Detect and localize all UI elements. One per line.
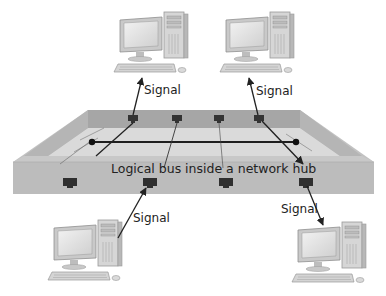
signal-label-bottom-right: Signal [281,202,318,216]
network-hub-diagram: Signal Signal Signal Signal Logical bus … [0,0,386,296]
computer-bottom-left-icon [48,220,122,281]
signal-arrow-top-left [133,78,142,115]
computer-top-left-icon [114,12,188,73]
signal-label-top-right: Signal [256,84,293,98]
bus-terminator-right-icon [293,139,299,145]
signal-label-top-left: Signal [144,83,181,97]
diagram-canvas [0,0,386,296]
bus-terminator-left-icon [89,139,95,145]
signal-label-bottom-left: Signal [133,211,170,225]
hub-label: Logical bus inside a network hub [111,161,316,176]
computer-bottom-right-icon [292,222,366,283]
network-hub [13,110,374,194]
computer-top-right-icon [220,12,294,73]
